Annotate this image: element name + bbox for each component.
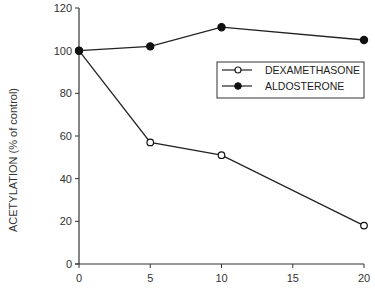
series-layer: [75, 24, 367, 229]
legend-label: ALDOSTERONE: [265, 80, 344, 92]
y-tick-label: 40: [60, 173, 72, 185]
x-tick-label: 15: [287, 272, 299, 284]
y-tick-label: 80: [60, 87, 72, 99]
y-axis-label: ACETYLATION (% of control): [7, 88, 19, 232]
x-tick-label: 20: [358, 272, 370, 284]
y-axis-label-text: ACETYLATION (% of control): [7, 88, 19, 232]
x-tick-label: 5: [147, 272, 153, 284]
open-circle-marker-icon: [147, 139, 154, 146]
legend-label: DEXAMETHASONE: [265, 64, 360, 76]
line-chart: ACETYLATION (% of control) 0204060801001…: [0, 0, 375, 306]
filled-circle-marker-icon: [75, 47, 82, 54]
filled-circle-marker-icon: [360, 36, 367, 43]
filled-circle-marker-icon: [235, 83, 242, 90]
y-tick-label: 20: [60, 215, 72, 227]
x-tick-label: 0: [76, 272, 82, 284]
y-tick-label: 120: [54, 2, 72, 14]
open-circle-marker-icon: [218, 152, 225, 159]
x-tick-label: 10: [215, 272, 227, 284]
filled-circle-marker-icon: [218, 24, 225, 31]
y-tick-label: 100: [54, 45, 72, 57]
filled-circle-marker-icon: [147, 43, 154, 50]
axes: 02040608010012005101520: [54, 2, 370, 284]
y-tick-label: 0: [66, 258, 72, 270]
legend: DEXAMETHASONE ALDOSTERONE: [217, 62, 364, 98]
open-circle-marker-icon: [235, 67, 241, 73]
y-tick-label: 60: [60, 130, 72, 142]
markers-aldosterone: [75, 24, 367, 55]
open-circle-marker-icon: [361, 222, 368, 229]
